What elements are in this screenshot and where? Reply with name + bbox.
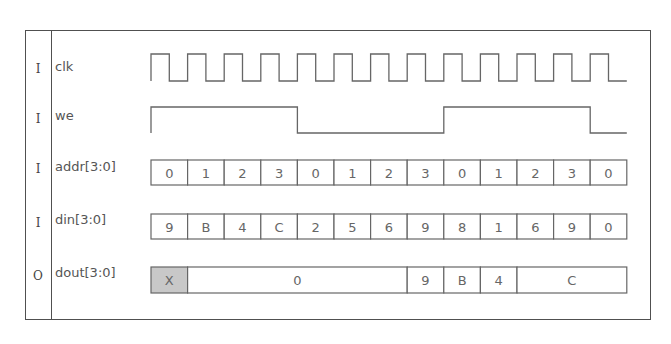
bus-value-label: 8 <box>458 220 466 235</box>
bus-value-label: 3 <box>275 166 283 181</box>
bus-value-label: 1 <box>495 220 503 235</box>
bus-value-label: 5 <box>348 220 356 235</box>
bus-value-label: 1 <box>495 166 503 181</box>
bus-addr: 0123012301230 <box>151 160 627 185</box>
bus-value-label: 4 <box>238 220 246 235</box>
bus-value-label: 1 <box>202 166 210 181</box>
bus-value-label: 2 <box>385 166 393 181</box>
bus-value-label: C <box>275 220 284 235</box>
bus-value-label: 9 <box>568 220 576 235</box>
bus-value-label: 9 <box>421 220 429 235</box>
bus-value-label: 6 <box>385 220 393 235</box>
bus-value-label: 9 <box>421 273 429 288</box>
bus-value-label: 2 <box>531 166 539 181</box>
bus-value-label: C <box>567 273 576 288</box>
bus-value-label: 0 <box>458 166 466 181</box>
bus-value-label: 1 <box>348 166 356 181</box>
bus-value-label: 4 <box>495 273 503 288</box>
bus-dout: X09B4C <box>151 267 627 293</box>
clk-waveform <box>151 54 627 81</box>
bus-value-label: 3 <box>421 166 429 181</box>
bus-value-label: B <box>201 220 210 235</box>
bus-value-label: 9 <box>165 220 173 235</box>
bus-value-label: 0 <box>604 166 612 181</box>
bus-value-label: 0 <box>165 166 173 181</box>
bus-value-label: 6 <box>531 220 539 235</box>
bus-value-label: 0 <box>293 273 301 288</box>
bus-value-label: 3 <box>568 166 576 181</box>
bus-value-label: B <box>458 273 467 288</box>
bus-value-label: 2 <box>312 220 320 235</box>
bus-value-label: 2 <box>238 166 246 181</box>
waveform-canvas: 01230123012309B4C256981690X09B4C <box>0 0 671 344</box>
bus-value-label: 0 <box>604 220 612 235</box>
bus-din: 9B4C256981690 <box>151 214 627 239</box>
bus-value-label: 0 <box>312 166 320 181</box>
we-waveform <box>151 107 627 133</box>
bus-value-label: X <box>165 273 174 288</box>
